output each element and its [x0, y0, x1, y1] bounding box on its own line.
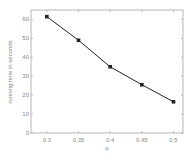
y-tick-label: 0 [26, 130, 30, 136]
y-tick-label: 10 [22, 111, 29, 117]
line-chart: 0102030405060 0.30.350.40.450.5 p runnin… [0, 0, 195, 157]
x-tick-label: 0.3 [43, 137, 52, 143]
square-marker-icon [45, 15, 49, 19]
y-tick-label: 40 [22, 54, 29, 60]
square-marker-icon [140, 83, 144, 87]
x-axis-label: p [105, 145, 109, 151]
x-tick-label: 0.35 [73, 137, 85, 143]
x-tick-label: 0.5 [169, 137, 178, 143]
y-tick-label: 50 [22, 35, 29, 41]
x-tick-label: 0.4 [106, 137, 115, 143]
x-tick-label: 0.45 [136, 137, 148, 143]
square-marker-icon [108, 65, 112, 69]
square-marker-icon [172, 100, 176, 104]
y-tick-label: 30 [22, 73, 29, 79]
y-tick-label: 20 [22, 92, 29, 98]
y-tick-label: 60 [22, 16, 29, 22]
plot-frame [31, 10, 183, 133]
y-axis-label: running time in seconds [7, 40, 13, 103]
square-marker-icon [77, 38, 81, 42]
